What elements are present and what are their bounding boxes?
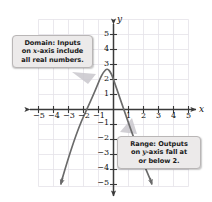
y-tick-label--3: −3 <box>97 148 109 157</box>
x-tick-label-1: 1 <box>124 111 133 120</box>
domain-callout-line-2-pre: on <box>22 47 33 55</box>
range-callout: Range: Outputs on y-axis fall at or belo… <box>117 136 201 169</box>
x-tick-label-4: 4 <box>169 111 178 120</box>
x-tick-label-2: 2 <box>139 111 148 120</box>
y-tick-label-3: 3 <box>100 59 109 68</box>
x-tick-label--5: −5 <box>33 111 44 120</box>
domain-callout-line-1: Domain: Inputs <box>16 39 89 48</box>
x-tick-label-3: 3 <box>154 111 163 120</box>
range-callout-line-2: on y-axis fall at <box>121 148 197 157</box>
domain-callout-line-3: all real numbers. <box>16 56 89 65</box>
x-axis-letter: x <box>199 104 204 114</box>
x-tick-label-5: 5 <box>184 111 193 120</box>
y-tick-label-2: 2 <box>100 74 109 83</box>
x-tick-label--4: −4 <box>48 111 59 120</box>
range-callout-line-2-post: -axis fall at <box>146 148 187 156</box>
y-tick-label--1: −1 <box>97 118 109 127</box>
x-tick-label--2: −2 <box>78 111 89 120</box>
y-tick-label--4: −4 <box>97 163 109 172</box>
domain-callout: Domain: Inputs on x-axis include all rea… <box>12 35 93 68</box>
y-axis-letter: y <box>117 14 122 24</box>
leader-tail-domain <box>72 72 96 84</box>
domain-callout-line-2: on x-axis include <box>16 47 89 56</box>
range-callout-line-1: Range: Outputs <box>121 140 197 149</box>
range-callout-line-3: or below 2. <box>121 157 197 166</box>
y-tick-label--5: −5 <box>97 178 109 187</box>
y-tick-label-1: 1 <box>100 89 109 98</box>
range-callout-line-2-pre: on <box>131 148 142 156</box>
y-tick-label-5: 5 <box>100 29 109 38</box>
y-tick-label-4: 4 <box>100 44 109 53</box>
graph-figure: x y −5 −4 −3 −2 −1 1 2 3 4 5 5 4 3 2 1 −… <box>0 0 212 202</box>
y-tick-label--2: −2 <box>97 133 109 142</box>
domain-callout-line-2-post: -axis include <box>37 47 83 55</box>
x-tick-label--3: −3 <box>63 111 74 120</box>
